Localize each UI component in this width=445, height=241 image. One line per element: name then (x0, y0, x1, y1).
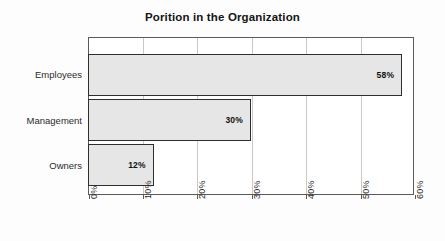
xtick-label-40: 40% (306, 180, 316, 199)
category-label-owners: Owners (0, 160, 82, 171)
bar-value-management: 30% (225, 115, 243, 125)
xtick-label-10: 10% (143, 180, 153, 199)
xtick-label-30: 30% (252, 180, 262, 199)
xtick-label-60: 60% (415, 180, 425, 199)
xtick-label-20: 20% (197, 180, 207, 199)
bar-value-owners: 12% (128, 160, 146, 170)
bar-chart: Porition in the Organization Employees M… (0, 0, 445, 241)
category-label-employees: Employees (0, 69, 82, 80)
bar-employees: 58% (88, 54, 402, 96)
bar-value-employees: 58% (377, 70, 395, 80)
xtick-label-0: 0% (89, 186, 99, 199)
bar-management: 30% (88, 99, 251, 141)
plot-area: 58% 30% 12% (88, 37, 414, 195)
chart-title: Porition in the Organization (0, 11, 445, 23)
category-label-management: Management (0, 115, 82, 126)
xtick-label-50: 50% (361, 180, 371, 199)
